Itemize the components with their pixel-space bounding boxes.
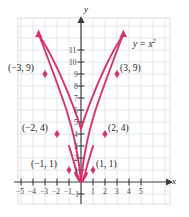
y-tick-label-p3: 3 [74,143,78,151]
y-tick-label-p7: 7 [74,95,78,103]
point-label-pos2-4: (2, 4) [108,124,129,134]
graph-canvas [0,0,189,217]
x-tick-label-p2: 2 [103,188,107,196]
x-tick-label-p5: 5 [139,188,143,196]
y-tick-label-p5: 5 [74,119,78,127]
equation-label: y = x2 [133,38,156,50]
x-tick-label-m4: −4 [28,188,36,196]
x-tick-label-p3: 3 [115,188,119,196]
y-axis-label: y [84,5,88,14]
point-label-neg1-1: (−1, 1) [31,160,57,170]
equation-exponent: 2 [153,37,156,44]
y-tick-label-p4: 4 [74,131,78,139]
point-label-neg2-4: (−2, 4) [22,124,48,134]
graph-figure: x y y = x2 (−3, 9) (3, 9) (−2, 4) (2, 4)… [0,0,189,217]
x-tick-label-p1: 1 [91,188,95,196]
y-tick-label-p10: 10 [69,59,77,67]
y-tick-label-p11: 11 [69,47,76,55]
y-tick-label-p1: 1 [74,167,78,175]
y-tick-label-p6: 6 [74,107,78,115]
x-tick-label-p4: 4 [127,188,131,196]
equation-text: y = x [133,39,153,49]
y-tick-label-p9: 9 [74,71,78,79]
y-tick-label-m1: −1 [71,191,79,199]
x-axis-label: x [172,177,176,186]
x-tick-label-m2: −2 [52,188,60,196]
x-tick-label-m5: −5 [16,188,24,196]
y-tick-label-p2: 2 [74,155,78,163]
y-tick-label-p8: 8 [74,83,78,91]
point-label-neg3-9: (−3, 9) [8,64,34,74]
point-label-pos3-9: (3, 9) [120,64,141,74]
point-label-pos1-1: (1, 1) [96,160,117,170]
x-tick-label-m3: −3 [40,188,48,196]
